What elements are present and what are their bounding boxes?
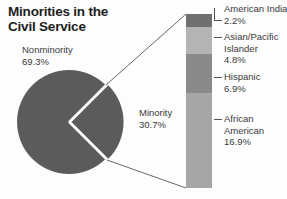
segment-label-african-american: African American 16.9% [224, 113, 264, 148]
pie-label-nonminority-name: Nonminority [22, 44, 73, 55]
segment-label-asian-pacific-islander-name-2: Islander [224, 43, 278, 55]
segment-tick-asian-pacific-islander [214, 37, 222, 38]
pie-label-minority-value: 30.7% [139, 119, 172, 131]
segment-label-hispanic-name: Hispanic [224, 71, 260, 82]
bar-segment-asian-pacific-islander [186, 27, 212, 54]
segment-tick-american-indian [214, 20, 222, 21]
segment-label-african-american-value: 16.9% [224, 136, 264, 148]
segment-label-american-indian-value: 2.2% [224, 15, 287, 27]
bar-segment-american-indian [186, 14, 212, 27]
segment-label-hispanic: Hispanic 6.9% [224, 71, 260, 94]
leader-line-bottom [107, 160, 186, 188]
segment-label-hispanic-value: 6.9% [224, 83, 260, 95]
pie-label-nonminority: Nonminority 69.3% [22, 44, 73, 67]
segment-label-african-american-name-2: American [224, 125, 264, 137]
pie-label-minority-name: Minority [139, 107, 172, 118]
leader-line-top [106, 14, 186, 85]
pie-label-nonminority-value: 69.3% [22, 56, 73, 68]
segment-label-african-american-name: African [224, 113, 254, 124]
segment-label-asian-pacific-islander-name: Asian/Pacific [224, 31, 278, 42]
segment-label-asian-pacific-islander-value: 4.8% [224, 54, 278, 66]
segment-label-american-indian: American Indian 2.2% [224, 3, 287, 26]
segment-tick-african-american [214, 119, 222, 120]
pie-chart-graphic [0, 0, 287, 199]
segment-tick-hispanic [214, 77, 222, 78]
chart-figure: Minorities in the Civil Service Nonminor… [0, 0, 287, 199]
segment-label-american-indian-name: American Indian [224, 3, 287, 14]
segment-label-asian-pacific-islander: Asian/Pacific Islander 4.8% [224, 31, 278, 66]
pie-label-minority: Minority 30.7% [139, 107, 172, 130]
bar-segment-african-american [186, 93, 212, 188]
stacked-breakout-bar [186, 14, 212, 188]
bar-segment-hispanic [186, 54, 212, 93]
